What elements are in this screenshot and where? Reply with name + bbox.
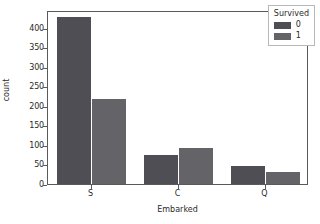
legend-label: 1 xyxy=(296,32,301,40)
legend-item: 0 xyxy=(274,20,309,30)
bar xyxy=(57,17,92,184)
bar xyxy=(179,148,214,184)
bar xyxy=(266,172,301,184)
y-tick-label: 400 xyxy=(2,25,44,33)
y-axis-ticks: 050100150200250300350400 xyxy=(0,0,44,224)
legend-title: Survived xyxy=(274,9,309,18)
legend-entries: 01 xyxy=(274,20,309,41)
y-axis-label: count xyxy=(3,70,11,110)
y-tick-label: 350 xyxy=(2,44,44,52)
x-tick-label: Q xyxy=(250,190,280,198)
bar xyxy=(92,99,127,184)
y-tick-label: 100 xyxy=(2,142,44,150)
y-tick-label: 150 xyxy=(2,122,44,130)
x-tick-label: S xyxy=(76,190,106,198)
legend-item: 1 xyxy=(274,31,309,41)
figure: 050100150200250300350400 count SCQ Embar… xyxy=(0,0,320,224)
legend: Survived 01 xyxy=(268,5,315,46)
legend-swatch xyxy=(274,33,291,40)
bar xyxy=(231,166,266,184)
x-axis-label: Embarked xyxy=(47,205,308,214)
bar xyxy=(144,155,179,184)
y-tick-mark xyxy=(43,185,47,186)
y-tick-label: 0 xyxy=(2,181,44,189)
y-tick-label: 50 xyxy=(2,161,44,169)
x-tick-label: C xyxy=(163,190,193,198)
legend-label: 0 xyxy=(296,21,301,29)
legend-swatch xyxy=(274,22,291,29)
